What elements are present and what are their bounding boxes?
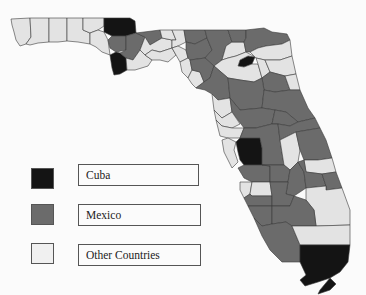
south-counties	[238, 160, 350, 294]
legend-swatch-other	[31, 243, 54, 264]
county-miami-dade	[300, 245, 350, 286]
legend-swatch-cuba	[31, 168, 54, 189]
county-broward	[292, 225, 350, 245]
legend-label-cuba: Cuba	[78, 164, 199, 186]
legend-label-mexico: Mexico	[78, 204, 201, 226]
panhandle-counties	[11, 18, 176, 75]
county-pinellas	[222, 138, 238, 168]
county-hillsborough	[236, 138, 262, 165]
county-manatee	[238, 165, 270, 182]
county-calhoun	[108, 36, 126, 52]
county-jackson	[104, 18, 136, 36]
county-brevard	[296, 128, 332, 160]
legend-swatch-mexico	[31, 204, 54, 225]
legend-label-other: Other Countries	[78, 244, 201, 266]
county-desoto	[250, 182, 272, 196]
county-indian-river	[304, 158, 336, 174]
county-charlotte	[244, 194, 272, 206]
county-okaloosa	[49, 18, 67, 42]
county-lee	[248, 206, 272, 226]
